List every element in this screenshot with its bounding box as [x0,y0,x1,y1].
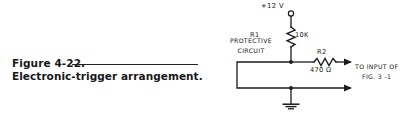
arrowhead-output-upper [344,59,352,66]
supply-terminal-circle [288,11,293,16]
junction-dot-lower [289,86,293,90]
protective-circuit-line-2: CIRCUIT [214,46,288,56]
schematic-drawing [200,0,414,120]
wire-group [237,11,350,104]
figure-page: Figure 4-22. Electronic-trigger arrangem… [0,0,414,120]
ground-symbol [283,104,300,109]
r2-designator-label: R2 [317,48,326,58]
output-destination-line-2: FIG. 3 -1 [355,72,398,82]
protective-circuit-line-1: PROTECTIVE [214,36,288,46]
output-destination-line-1: TO INPUT OF [355,62,398,72]
figure-title: Electronic-trigger arrangement. [12,70,202,83]
circuit-schematic: +12 V R1 10K R2 470 Ω PROTECTIVE CIRCUIT… [200,0,414,120]
figure-caption: Figure 4-22. Electronic-trigger arrangem… [12,57,202,83]
resistor-r1-zigzag [287,27,295,47]
r1-value-label: 10K [295,31,309,41]
supply-voltage-label: +12 V [261,2,284,12]
resistor-r2-zigzag [314,58,336,65]
caption-rule-line [72,64,198,65]
protective-circuit-label: PROTECTIVE CIRCUIT [214,36,288,56]
wire-protective-loop [237,62,291,88]
output-destination-label: TO INPUT OF FIG. 3 -1 [355,62,398,82]
r2-value-label: 470 Ω [310,66,331,76]
junction-dot-upper [289,60,293,64]
arrowhead-output-lower [344,85,352,92]
figure-number: Figure 4-22. [12,57,202,69]
